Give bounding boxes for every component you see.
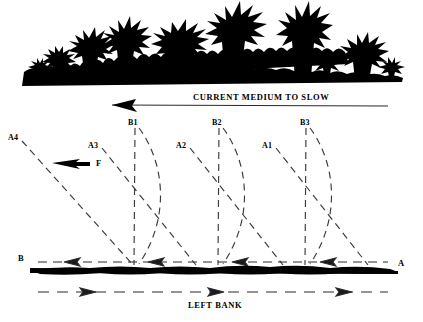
cast-line-b2-vertical [218,128,219,265]
bank-marker-a: A [398,258,404,268]
cast-line-a1 [276,148,368,265]
cast-label-b2: B2 [212,118,222,127]
current-direction-label: CURRENT MEDIUM TO SLOW [193,92,329,102]
retrieve-arrow-line [38,258,388,266]
cast-trajectories [22,128,368,265]
cast-line-b3-vertical [305,128,306,265]
cast-label-a4: A4 [8,133,18,142]
treeline-silhouette [22,1,405,86]
cast-label-a3: A3 [88,141,98,150]
cast-line-b1-vertical [134,128,135,265]
force-arrow [52,159,90,169]
left-bank-line [30,266,398,275]
cast-label-b1: B1 [128,118,138,127]
bank-flow-arrows [38,288,388,296]
cast-label-a1: A1 [262,141,272,150]
bank-marker-b: B [18,253,24,263]
left-bank-label: LEFT BANK [188,300,242,310]
cast-line-a2 [190,148,283,265]
cast-label-a2: A2 [176,141,186,150]
diagram-canvas [0,0,423,322]
river-casting-diagram: CURRENT MEDIUM TO SLOW LEFT BANK F B A A… [0,0,423,322]
cast-line-b2-arc [223,128,245,264]
force-label: F [96,158,101,168]
cast-label-b3: B3 [300,118,310,127]
cast-line-b1-arc [139,128,161,264]
